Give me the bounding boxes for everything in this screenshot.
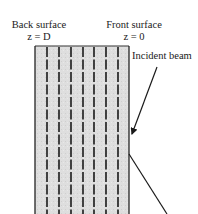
sample-slab [35,46,129,214]
sample-body [35,46,129,214]
reflected-beam-line [129,154,167,214]
sample-diagram [0,0,198,214]
incident-beam-arrow [132,67,157,134]
